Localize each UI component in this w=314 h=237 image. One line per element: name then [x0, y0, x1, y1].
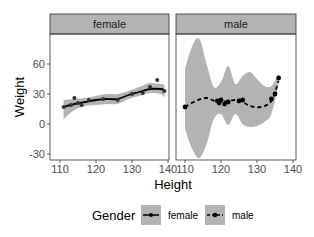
data-point — [69, 103, 73, 107]
x-tick-label: 140 — [159, 163, 177, 175]
data-point — [130, 92, 134, 96]
x-axis-title: Height — [154, 177, 192, 192]
confidence-band-male — [185, 38, 279, 158]
legend-key-male — [205, 205, 225, 225]
data-point — [162, 89, 166, 93]
legend-label-female: female — [168, 210, 198, 221]
x-tick-label: 110 — [176, 163, 194, 175]
x-tick-label: 130 — [123, 163, 141, 175]
strip-label-male: male — [224, 18, 248, 30]
data-point — [183, 105, 188, 110]
data-point — [76, 101, 80, 105]
legend-key-female — [141, 205, 161, 225]
x-axis-male: 110120130140 — [176, 160, 302, 175]
data-point — [276, 76, 281, 81]
panel-female — [50, 34, 169, 160]
data-point — [116, 98, 120, 102]
panel-male — [176, 34, 296, 160]
x-tick-label: 110 — [51, 163, 69, 175]
x-axis-female: 110120130140 — [51, 160, 177, 175]
y-axis: -3003060 — [29, 58, 50, 160]
legend: Gender female male — [92, 205, 254, 225]
y-tick-label: 0 — [39, 118, 45, 130]
data-point — [80, 103, 84, 107]
data-point — [226, 100, 231, 105]
y-tick-label: 30 — [33, 88, 45, 100]
y-tick-label: -30 — [29, 148, 45, 160]
y-tick-label: 60 — [33, 58, 45, 70]
data-point — [87, 98, 91, 102]
y-axis-title: Weight — [12, 77, 27, 118]
faceted-chart: female male -3003060 110120130140 110120… — [0, 0, 314, 237]
data-point — [155, 78, 159, 82]
strip-male: male — [176, 14, 296, 34]
x-tick-label: 130 — [248, 163, 266, 175]
data-point — [148, 85, 152, 89]
x-tick-label: 140 — [284, 163, 302, 175]
data-point — [101, 97, 105, 101]
data-point — [219, 98, 224, 103]
data-point — [72, 96, 76, 100]
data-point — [62, 105, 66, 109]
x-tick-label: 120 — [212, 163, 230, 175]
strip-female: female — [50, 14, 169, 34]
data-point — [269, 97, 274, 102]
legend-label-male: male — [232, 210, 254, 221]
strip-label-female: female — [93, 18, 126, 30]
x-tick-label: 120 — [87, 163, 105, 175]
legend-title: Gender — [92, 208, 136, 223]
data-point — [141, 91, 145, 95]
data-point — [240, 98, 245, 103]
data-point — [273, 92, 278, 97]
